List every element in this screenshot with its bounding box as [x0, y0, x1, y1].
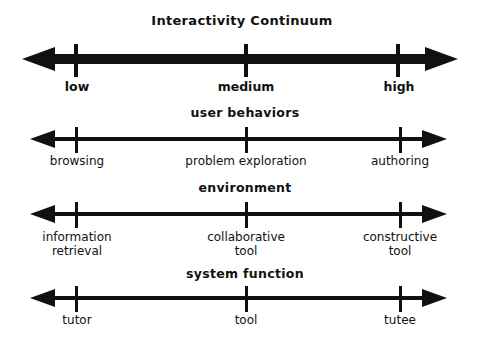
tick-label-high: high [383, 80, 414, 94]
main-arrow [22, 44, 458, 77]
system-function-arrow [30, 286, 447, 312]
diagram-title: Interactivity Continuum [151, 14, 332, 29]
label-line: tool [207, 245, 285, 259]
tick-label-authoring: authoring [371, 155, 429, 169]
section-heading-system-function: system function [186, 267, 304, 281]
tick-label-collaborative-tool: collaborative tool [207, 231, 285, 259]
tick-label-problem-exploration: problem exploration [185, 155, 306, 169]
user-behaviors-arrow [30, 127, 447, 153]
environment-arrow [30, 202, 447, 228]
continuum-arrows [0, 0, 478, 349]
tick-label-tutor: tutor [62, 314, 91, 328]
label-line: tool [363, 245, 437, 259]
tick-label-tutee: tutee [384, 314, 416, 328]
label-line: constructive [363, 231, 437, 245]
tick-label-browsing: browsing [50, 155, 104, 169]
tick-label-medium: medium [218, 80, 275, 94]
tick-label-information-retrieval: information retrieval [42, 231, 111, 259]
section-heading-user-behaviors: user behaviors [191, 106, 300, 120]
label-line: collaborative [207, 231, 285, 245]
section-heading-environment: environment [198, 181, 291, 195]
tick-label-constructive-tool: constructive tool [363, 231, 437, 259]
tick-label-tool: tool [235, 314, 258, 328]
label-line: information [42, 231, 111, 245]
label-line: retrieval [42, 245, 111, 259]
tick-label-low: low [65, 80, 89, 94]
